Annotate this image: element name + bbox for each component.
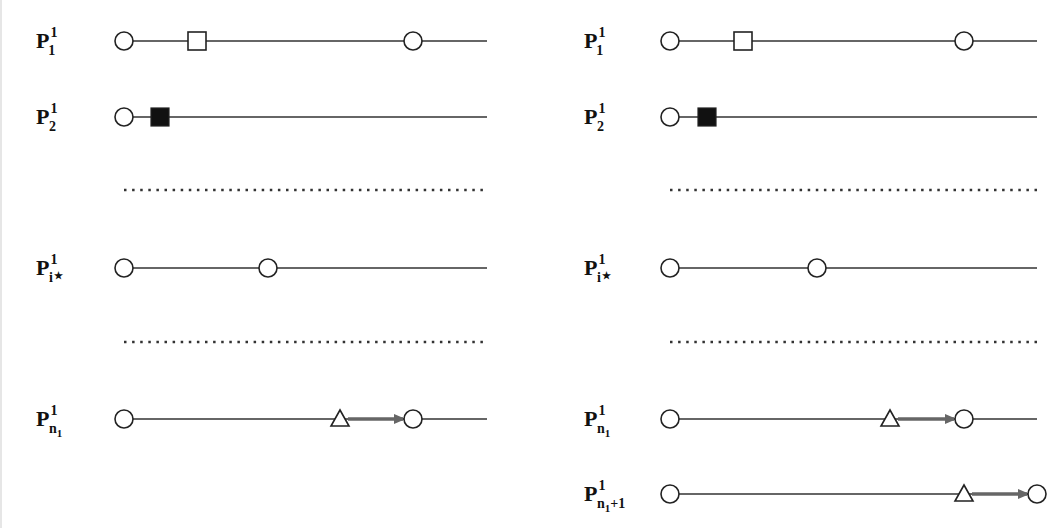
send-triangle-icon [331,410,349,426]
subscript-plus-one: +1 [610,496,625,511]
state-circle-icon [661,410,679,428]
state-circle-icon [955,32,973,50]
filled-square-icon [151,108,169,126]
process-label-base: P [584,104,597,129]
state-circle-icon [955,410,973,428]
process-row: P11 [36,25,487,58]
open-square-icon [734,32,752,50]
process-row: P12 [584,101,1037,134]
process-label-base: P [36,104,49,129]
state-circle-icon [115,32,133,50]
diagram-canvas: P11P12P1i★P1n1P11P12P1i★P1n1P1n1+1 [0,0,1062,528]
state-circle-icon [661,32,679,50]
state-circle-icon [404,410,422,428]
process-label-base: P [36,255,49,280]
panel-left: P11P12P1i★P1n1 [36,25,487,439]
state-circle-icon [115,410,133,428]
process-label-superscript: 1 [50,403,57,418]
process-label-superscript: 1 [50,252,57,267]
state-circle-icon [661,108,679,126]
process-label-subscript: i [597,270,601,285]
process-timeline-diagram: P11P12P1i★P1n1P11P12P1i★P1n1P1n1+1 [0,0,1062,528]
process-label-subscript: 2 [597,119,604,134]
process-label-superscript: 1 [598,478,605,493]
process-label-superscript: 1 [598,25,605,40]
send-triangle-icon [955,485,973,501]
process-label-subscript: 1 [596,43,603,58]
process-label: P1n1 [584,403,610,439]
star-subscript: ★ [602,270,611,281]
state-circle-icon [661,259,679,277]
process-label-superscript: 1 [598,101,605,116]
state-circle-icon [661,485,679,503]
process-label-subscript: i [49,270,53,285]
process-row: P1n1 [36,403,487,439]
process-label-subscript: 2 [49,119,56,134]
process-row: P1i★ [584,252,1037,285]
process-label-superscript: 1 [50,25,57,40]
process-label-base: P [36,406,49,431]
process-label-superscript: 1 [598,252,605,267]
process-label-subscript: n [49,421,57,436]
process-label-base: P [584,406,597,431]
process-row: P12 [36,101,487,134]
panel-right: P11P12P1i★P1n1P1n1+1 [584,25,1046,514]
process-label: P11 [584,25,605,58]
process-label: P1i★ [584,252,611,285]
process-label-base: P [584,255,597,280]
state-circle-icon [404,32,422,50]
process-label-subscript: 1 [48,43,55,58]
subscript-index-1: 1 [605,427,611,439]
state-circle-icon [115,259,133,277]
process-label-subscript: n [597,421,605,436]
process-row: P1n1+1 [584,478,1046,514]
state-circle-icon [259,259,277,277]
open-square-icon [188,32,206,50]
process-row: P1i★ [36,252,487,285]
process-label: P12 [584,101,605,134]
process-label: P12 [36,101,57,134]
process-label-base: P [584,481,597,506]
subscript-index-1: 1 [57,427,63,439]
process-label: P1n1+1 [584,478,625,514]
process-row: P11 [584,25,1037,58]
process-label-subscript: n [597,496,605,511]
filled-square-icon [698,108,716,126]
star-subscript: ★ [54,270,63,281]
process-label: P11 [36,25,57,58]
state-circle-icon [808,259,826,277]
process-label-superscript: 1 [598,403,605,418]
process-label-superscript: 1 [50,101,57,116]
process-label: P1n1 [36,403,62,439]
send-triangle-icon [881,410,899,426]
process-row: P1n1 [584,403,1037,439]
state-circle-icon [115,108,133,126]
state-circle-icon [1028,485,1046,503]
process-label: P1i★ [36,252,63,285]
